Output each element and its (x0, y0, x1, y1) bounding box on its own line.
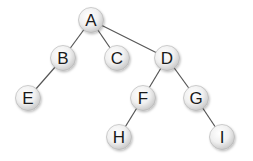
node-label: H (113, 128, 125, 147)
tree-diagram: ABCDEFGHI (0, 0, 253, 161)
node-label: F (138, 89, 148, 108)
node-d: D (155, 46, 180, 71)
node-e: E (16, 86, 41, 111)
node-g: G (184, 86, 209, 111)
node-c: C (105, 46, 130, 71)
node-a: A (79, 8, 104, 33)
node-label: D (161, 49, 173, 68)
node-label: A (85, 11, 97, 30)
node-b: B (51, 46, 76, 71)
node-label: G (189, 89, 202, 108)
tree-edges (28, 20, 222, 137)
node-h: H (107, 125, 132, 150)
node-label: C (111, 49, 123, 68)
node-label: B (57, 49, 68, 68)
tree-nodes: ABCDEFGHI (16, 8, 235, 150)
node-f: F (131, 86, 156, 111)
node-i: I (210, 125, 235, 150)
node-label: I (220, 128, 225, 147)
node-label: E (22, 89, 33, 108)
